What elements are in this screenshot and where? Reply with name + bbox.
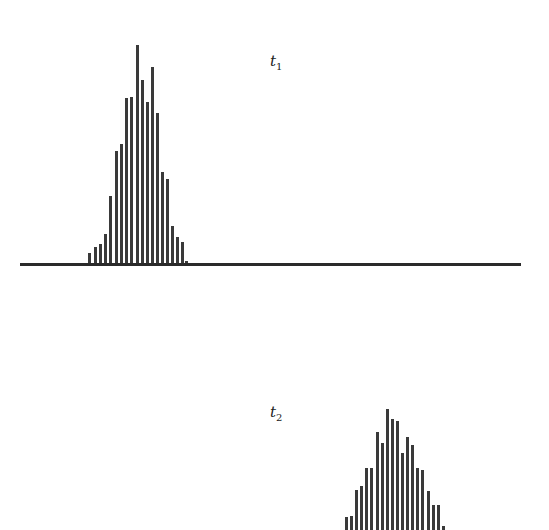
label-t2-sub: 2 <box>276 412 282 423</box>
histogram-bar <box>370 468 373 530</box>
histogram-bar <box>376 432 379 530</box>
histogram-bar <box>381 443 384 530</box>
histogram-bar <box>355 490 358 530</box>
label-t2: t2 <box>270 403 282 423</box>
histogram-bar <box>406 437 409 530</box>
histogram-bar <box>421 470 424 530</box>
histogram-bar <box>442 526 445 530</box>
histogram-bar <box>365 468 368 530</box>
histogram-bar <box>416 468 419 530</box>
histogram-bar <box>427 491 430 530</box>
histogram-bar <box>350 516 353 530</box>
histogram-bar <box>396 421 399 530</box>
histogram-bar <box>345 517 348 530</box>
histogram-bar <box>411 445 414 530</box>
histogram-bar <box>401 453 404 530</box>
histogram-bar <box>391 419 394 530</box>
histogram-bar <box>437 505 440 530</box>
histogram-bar <box>360 486 363 530</box>
histogram-t2: t2 <box>0 0 549 530</box>
histogram-bar <box>386 409 389 530</box>
histogram-bar <box>432 505 435 530</box>
